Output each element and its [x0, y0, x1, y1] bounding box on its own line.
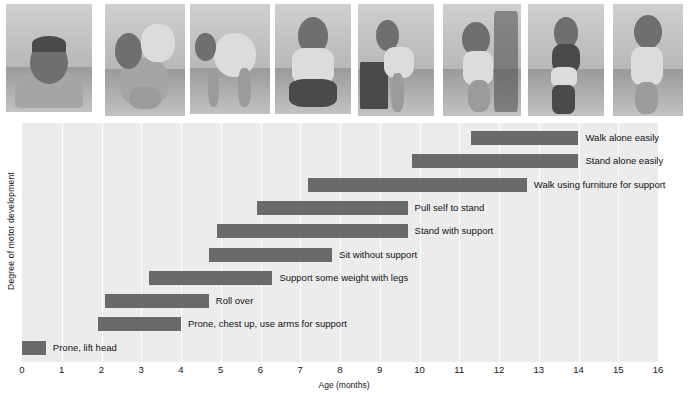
- milestone-label: Support some weight with legs: [279, 271, 408, 285]
- milestone-label: Roll over: [216, 294, 254, 308]
- gridline-month-9: [380, 123, 381, 362]
- x-tick-label: 6: [258, 364, 263, 375]
- x-tick-label: 3: [139, 364, 144, 375]
- x-tick-label: 10: [414, 364, 425, 375]
- milestone-bar: [105, 294, 208, 308]
- gridline-month-1: [62, 123, 63, 362]
- plot-area: Walk alone easilyStand alone easilyWalk …: [22, 123, 658, 362]
- motor-development-milestones-figure: Degree of motor development Walk alone e…: [0, 0, 688, 395]
- x-tick-label: 7: [298, 364, 303, 375]
- photo-baby-pulling-self-to-stand: [358, 4, 434, 116]
- photo-baby-walking-alone: [613, 4, 683, 116]
- photo-baby-standing-with-support: [443, 4, 521, 116]
- gridline-month-14: [579, 123, 580, 362]
- milestone-bar: [257, 201, 408, 215]
- milestone-bar: [22, 341, 46, 355]
- x-tick-label: 1: [59, 364, 64, 375]
- x-tick-label: 8: [337, 364, 342, 375]
- milestone-bar: [217, 224, 408, 238]
- milestone-label: Stand with support: [415, 224, 494, 238]
- photo-baby-rolling-over: [105, 4, 185, 116]
- milestone-label: Prone, chest up, use arms for support: [188, 317, 347, 331]
- milestone-label: Walk alone easily: [586, 131, 660, 145]
- x-tick-label: 15: [613, 364, 624, 375]
- y-axis-label: Degree of motor development: [6, 146, 16, 316]
- photo-baby-sitting-without-support: [275, 4, 351, 114]
- gridline-month-4: [181, 123, 182, 362]
- x-tick-label: 5: [218, 364, 223, 375]
- x-tick-label: 11: [454, 364, 464, 375]
- x-tick-label: 2: [99, 364, 104, 375]
- photo-baby-walking-with-support: [528, 4, 604, 116]
- milestone-bar: [98, 317, 181, 331]
- x-tick-label: 16: [653, 364, 664, 375]
- infant-photo-strip: [0, 0, 688, 118]
- milestone-range-chart: Degree of motor development Walk alone e…: [0, 118, 688, 395]
- milestone-label: Sit without support: [339, 248, 417, 262]
- x-axis-label: Age (months): [0, 380, 688, 390]
- milestone-bar: [471, 131, 578, 145]
- milestone-label: Pull self to stand: [415, 201, 485, 215]
- x-tick-label: 13: [533, 364, 544, 375]
- x-tick-label: 9: [377, 364, 382, 375]
- milestone-label: Walk using furniture for support: [534, 178, 666, 192]
- x-tick-label: 12: [494, 364, 505, 375]
- x-tick-label: 14: [573, 364, 584, 375]
- x-tick-label: 4: [178, 364, 183, 375]
- milestone-label: Stand alone easily: [586, 154, 664, 168]
- milestone-bar: [209, 248, 332, 262]
- photo-baby-supporting-weight-on-legs: [190, 4, 270, 114]
- milestone-bar: [149, 271, 272, 285]
- photo-baby-prone-lifting-head: [6, 4, 92, 112]
- x-tick-label: 0: [19, 364, 24, 375]
- milestone-bar: [412, 154, 579, 168]
- milestone-label: Prone, lift head: [53, 341, 117, 355]
- milestone-bar: [308, 178, 527, 192]
